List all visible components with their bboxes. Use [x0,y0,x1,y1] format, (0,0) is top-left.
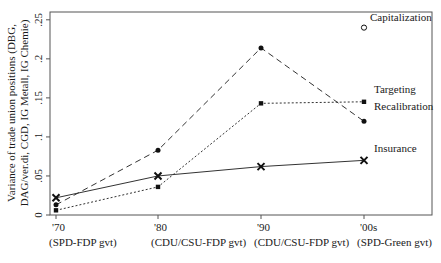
series-line-recalibration [56,48,364,205]
series-label-capitalization: Capitalization [370,11,432,23]
y-axis: 0.05.1.15.2.25 [32,12,50,217]
y-tick-label: .15 [32,91,44,105]
data-point-recalibration [156,148,161,153]
y-axis-label-line-2: DAG/ver.di, CGD, IG Metall, IG Chemie) [18,19,31,206]
series-line-insurance [56,160,364,197]
x-tick-label: '00s [360,221,377,233]
y-tick-label: .25 [32,12,44,26]
series-label-targeting: Targeting [374,83,416,95]
y-axis-label-line-1: Variance of trade union positions (DBG, [5,24,18,202]
x-axis: '70(SPD-FDP gvt)'80(CDU/CSU-FDP gvt)'90(… [49,215,432,249]
y-tick-label: .1 [32,133,44,141]
x-tick-label: '70 [52,221,65,233]
series-line-targeting [56,102,364,211]
series-group: InsuranceRecalibrationTargetingCapitaliz… [53,11,434,213]
x-tick-sublabel: (CDU/CSU-FDP gvt) [254,236,350,249]
series-label-insurance: Insurance [374,142,417,154]
y-tick-label: .05 [32,169,44,183]
data-point-recalibration [362,119,367,124]
data-point-targeting [54,208,58,212]
y-tick-label: 0 [32,212,44,218]
data-point-recalibration [259,45,264,50]
data-point-recalibration [54,202,59,207]
data-point-capitalization [361,25,366,30]
x-tick-sublabel: (SPD-Green gvt) [357,236,432,249]
y-tick-label: .2 [32,55,44,63]
x-tick-label: '90 [257,221,270,233]
x-tick-sublabel: (CDU/CSU-FDP gvt) [151,236,247,249]
plot-frame [50,12,432,215]
data-point-insurance [53,194,60,201]
x-tick-sublabel: (SPD-FDP gvt) [49,236,117,249]
data-point-targeting [156,185,160,189]
line-chart: Variance of trade union positions (DBG, … [0,0,441,263]
data-point-targeting [362,100,366,104]
series-label-recalibration: Recalibration [374,100,434,112]
data-point-targeting [259,101,263,105]
x-tick-label: '80 [154,221,167,233]
